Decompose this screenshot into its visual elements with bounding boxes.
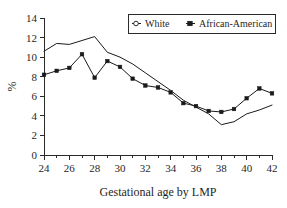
- y-tick-label: 14: [26, 12, 38, 24]
- data-point: [207, 109, 211, 113]
- data-point: [182, 101, 186, 105]
- data-point: [131, 77, 135, 81]
- data-point: [68, 66, 72, 70]
- x-tick-label: 40: [241, 162, 253, 174]
- chart-legend: WhiteAfrican-American: [128, 14, 275, 33]
- legend-label: White: [145, 18, 170, 29]
- data-point: [144, 84, 148, 88]
- x-tick-label: 32: [140, 162, 151, 174]
- y-axis-title: %: [5, 82, 19, 92]
- x-axis-title: Gestational age by LMP: [100, 185, 217, 199]
- data-point: [270, 92, 274, 96]
- chart-figure: 02468101214 24262830323436384042 WhiteAf…: [0, 0, 287, 208]
- y-axis-tick-labels: 02468101214: [26, 12, 38, 161]
- x-axis-tick-marks: [44, 155, 272, 160]
- y-tick-label: 4: [32, 110, 38, 122]
- data-point: [106, 59, 110, 63]
- x-tick-label: 26: [64, 162, 76, 174]
- x-tick-label: 36: [191, 162, 203, 174]
- legend-marker-open-circle-icon: [134, 21, 139, 26]
- x-tick-label: 28: [89, 162, 101, 174]
- y-tick-label: 6: [32, 90, 38, 102]
- data-point: [42, 73, 46, 77]
- line-chart: 02468101214 24262830323436384042 WhiteAf…: [0, 0, 287, 208]
- data-point: [220, 110, 224, 114]
- x-tick-label: 42: [267, 162, 278, 174]
- legend-items: WhiteAfrican-American: [132, 18, 272, 29]
- y-tick-label: 8: [32, 71, 38, 83]
- legend-marker-filled-square-icon: [188, 21, 193, 26]
- x-tick-label: 34: [165, 162, 177, 174]
- series-line-white: [44, 37, 272, 125]
- data-point: [258, 87, 262, 91]
- data-point: [118, 65, 122, 69]
- y-tick-label: 0: [32, 149, 38, 161]
- y-tick-label: 10: [26, 51, 38, 63]
- x-tick-label: 30: [115, 162, 127, 174]
- x-tick-label: 38: [216, 162, 228, 174]
- series-line-african-american: [44, 54, 272, 112]
- data-point: [55, 69, 59, 73]
- data-point: [169, 91, 173, 95]
- y-tick-label: 12: [26, 32, 37, 44]
- data-point: [194, 104, 198, 108]
- y-tick-label: 2: [32, 129, 38, 141]
- data-point: [93, 76, 97, 80]
- legend-label: African-American: [199, 18, 272, 29]
- data-point: [245, 96, 249, 100]
- data-point: [156, 86, 160, 90]
- data-point: [232, 107, 236, 111]
- x-tick-label: 24: [39, 162, 51, 174]
- y-axis-tick-marks: [40, 18, 44, 155]
- x-axis-tick-labels: 24262830323436384042: [39, 162, 278, 174]
- data-point: [80, 52, 84, 56]
